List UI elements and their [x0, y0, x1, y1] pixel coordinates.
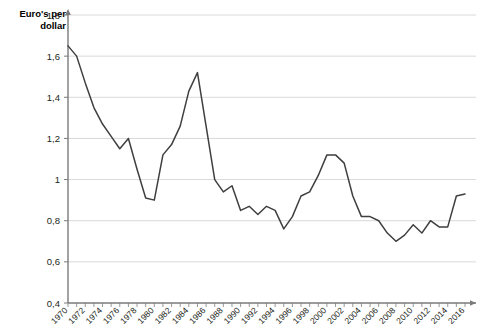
x-tick-label: 1988: [204, 305, 225, 326]
y-tick-label: 0,6: [47, 256, 60, 267]
x-tick-label: 2000: [308, 305, 329, 326]
series-line-euros-per-dollar: [68, 46, 465, 241]
x-tick-label: 1972: [66, 305, 87, 326]
y-tick-label: 1,8: [47, 10, 60, 21]
x-tick-label: 2014: [429, 305, 450, 326]
x-tick-label: 2004: [342, 305, 363, 326]
x-tick-label: 2010: [394, 305, 415, 326]
plot-area: 0,40,60,811,21,41,61,8 19701972197419761…: [0, 0, 488, 332]
x-tick-label: 2006: [360, 305, 381, 326]
y-tick-label: 1,2: [47, 133, 60, 144]
x-axis-ticks: 1970197219741976197819801982198419861988…: [49, 303, 467, 326]
x-tick-label: 2016: [446, 305, 467, 326]
y-tick-label: 1,6: [47, 51, 60, 62]
x-tick-label: 2012: [411, 305, 432, 326]
x-tick-label: 1986: [187, 305, 208, 326]
x-tick-label: 1976: [101, 305, 122, 326]
x-tick-label: 1998: [291, 305, 312, 326]
x-tick-label: 1994: [256, 305, 277, 326]
x-axis-arrow: [470, 300, 476, 306]
x-tick-label: 1984: [170, 305, 191, 326]
x-tick-label: 1982: [153, 305, 174, 326]
x-tick-label: 1974: [83, 305, 104, 326]
x-tick-label: 1996: [273, 305, 294, 326]
y-axis-ticks: 0,40,60,811,21,41,61,8: [47, 10, 68, 309]
line-chart: Euro's per dollar 0,40,60,811,21,41,61,8…: [0, 0, 488, 332]
x-tick-label: 1992: [239, 305, 260, 326]
x-tick-label: 2002: [325, 305, 346, 326]
y-tick-label: 0,8: [47, 215, 60, 226]
gridlines: [68, 15, 476, 262]
y-tick-label: 1,4: [47, 92, 60, 103]
x-tick-label: 1990: [222, 305, 243, 326]
x-tick-label: 1980: [135, 305, 156, 326]
y-tick-label: 1: [55, 174, 60, 185]
x-tick-label: 1978: [118, 305, 139, 326]
x-tick-label: 2008: [377, 305, 398, 326]
y-tick-label: 0,4: [47, 298, 60, 309]
y-axis-arrow: [65, 9, 71, 15]
